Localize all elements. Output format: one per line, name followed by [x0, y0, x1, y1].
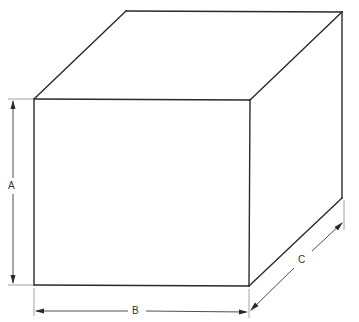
arrow-up-icon	[11, 100, 16, 109]
arrow-left-icon	[35, 309, 44, 314]
dimension-label-a: A	[7, 181, 16, 191]
dimension-a	[8, 99, 34, 285]
front-face	[34, 99, 250, 286]
dimension-label-b: B	[131, 306, 140, 316]
box-diagram	[0, 0, 359, 322]
arrow-right-icon	[239, 310, 248, 315]
dimension-b	[34, 288, 249, 318]
arrow-down-icon	[11, 275, 16, 284]
dimension-label-c: C	[297, 255, 306, 265]
